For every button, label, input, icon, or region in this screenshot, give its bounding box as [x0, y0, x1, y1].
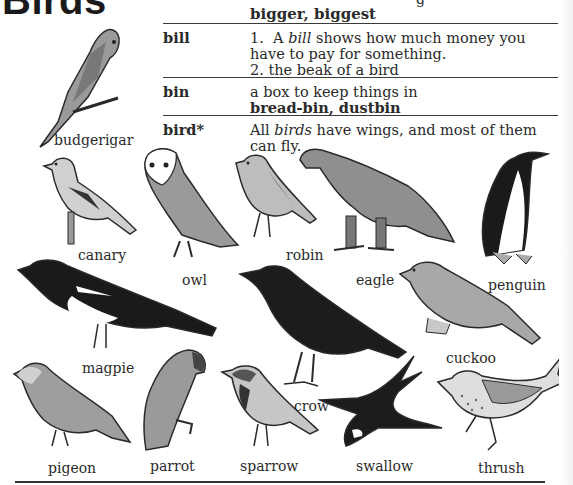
definition-italic: bill — [288, 30, 311, 46]
cuckoo-illustration — [398, 258, 543, 350]
sparrow-illustration — [220, 364, 320, 452]
definition-italic: birds — [274, 122, 312, 138]
parrot-illustration — [138, 346, 210, 454]
partial-top-text: g — [416, 0, 425, 7]
swallow-illustration — [318, 352, 448, 452]
definition-text: a box to keep things in — [250, 84, 418, 100]
definition-examples: bread-bin, dustbin — [250, 99, 401, 116]
canary-illustration — [38, 152, 138, 247]
divider — [163, 115, 558, 116]
definition-text: 2. the beak of a bird — [250, 62, 399, 78]
page-title: Birds — [2, 0, 107, 23]
bird-label: budgerigar — [54, 132, 133, 148]
previous-entry-continuation: bigger, biggest — [250, 5, 376, 23]
page-edge-shadow — [559, 0, 573, 485]
bird-label: parrot — [150, 458, 195, 474]
definition: a box to keep things in bread-bin, dustb… — [250, 84, 560, 116]
thrush-illustration — [436, 352, 566, 456]
definition: 1. A bill shows how much money you have … — [250, 30, 560, 78]
bird-label: thrush — [478, 460, 525, 476]
magpie-illustration — [16, 256, 221, 354]
definition-number: 1. — [250, 30, 264, 46]
pigeon-illustration — [12, 360, 132, 452]
headword: bin — [163, 84, 189, 100]
bird-label: swallow — [356, 458, 413, 474]
headword: bill — [163, 30, 190, 46]
bottom-rule — [15, 481, 545, 483]
divider — [163, 77, 558, 78]
bird-label: pigeon — [48, 460, 96, 476]
divider — [163, 23, 558, 24]
definition-text: All — [250, 122, 274, 138]
penguin-illustration — [468, 150, 553, 272]
headword: bird* — [163, 122, 204, 138]
bird-label: sparrow — [240, 458, 298, 474]
eagle-illustration — [298, 146, 458, 264]
definition-text: A — [273, 30, 288, 46]
owl-illustration — [140, 145, 240, 265]
